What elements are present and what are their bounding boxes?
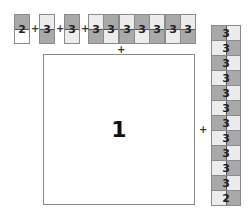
cell-label: 3	[65, 15, 79, 43]
top-group-cell: 3	[149, 14, 165, 44]
cell-label: 3	[212, 71, 240, 85]
cell-label: 3	[150, 15, 164, 43]
plus-sign: +	[81, 24, 89, 34]
big-square: 1	[43, 54, 195, 205]
column-cell: 3	[211, 175, 241, 191]
column-cell: 3	[211, 25, 241, 41]
top-single-cell: 2	[14, 14, 30, 44]
column-cell: 3	[211, 70, 241, 86]
plus-sign: +	[199, 125, 207, 135]
cell-label: 3	[181, 15, 195, 43]
column-cell: 3	[211, 100, 241, 116]
cell-label: 3	[120, 15, 134, 43]
top-group-cell: 3	[103, 14, 119, 44]
cell-label: 3	[212, 176, 240, 190]
cell-label: 3	[212, 56, 240, 70]
column-cell: 2	[211, 190, 241, 206]
cell-label: 3	[212, 86, 240, 100]
column-cell: 3	[211, 85, 241, 101]
top-single-cell: 3	[39, 14, 55, 44]
cell-label: 2	[212, 191, 240, 205]
cell-label: 3	[212, 26, 240, 40]
cell-label: 3	[212, 101, 240, 115]
cell-label: 3	[135, 15, 149, 43]
column-cell: 3	[211, 160, 241, 176]
column-cell: 3	[211, 130, 241, 146]
top-group-cell: 3	[119, 14, 135, 44]
top-group-cell: 3	[134, 14, 150, 44]
cell-label: 3	[212, 146, 240, 160]
plus-sign: +	[31, 24, 39, 34]
cell-label: 3	[104, 15, 118, 43]
cell-label: 3	[166, 15, 180, 43]
column-cell: 3	[211, 115, 241, 131]
cell-label: 3	[40, 15, 54, 43]
cell-label: 3	[89, 15, 103, 43]
cell-label: 3	[212, 131, 240, 145]
big-square-label: 1	[44, 55, 194, 204]
plus-sign: +	[56, 24, 64, 34]
cell-label: 3	[212, 116, 240, 130]
top-group-cell: 3	[180, 14, 196, 44]
column-cell: 3	[211, 40, 241, 56]
top-group-cell: 3	[165, 14, 181, 44]
column-cell: 3	[211, 145, 241, 161]
cell-label: 2	[15, 15, 29, 43]
cell-label: 3	[212, 161, 240, 175]
cell-label: 3	[212, 41, 240, 55]
column-cell: 3	[211, 55, 241, 71]
top-group-cell: 3	[88, 14, 104, 44]
top-single-cell: 3	[64, 14, 80, 44]
